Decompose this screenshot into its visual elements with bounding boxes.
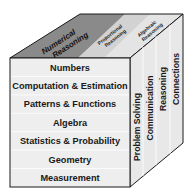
front-row-numbers: Numbers — [50, 63, 90, 73]
front-row-measurement: Measurement — [40, 173, 99, 183]
front-row-patterns-functions: Patterns & Functions — [24, 99, 116, 109]
cube-diagram: Numerical Reasoning Proportional Reasoni… — [0, 0, 196, 196]
side-column-problem-solving: Problem Solving — [132, 93, 142, 161]
side-column-communication: Communication — [145, 76, 155, 141]
front-row-statistics-probability: Statistics & Probability — [20, 136, 121, 146]
side-column-connections: Connections — [171, 53, 181, 105]
front-row-geometry: Geometry — [49, 155, 93, 165]
front-face: Numbers Computation & Estimation Pattern… — [10, 58, 130, 187]
front-row-algebra: Algebra — [53, 118, 88, 128]
side-column-reasoning: Reasoning — [158, 67, 168, 111]
front-row-computation-estimation: Computation & Estimation — [12, 81, 128, 91]
